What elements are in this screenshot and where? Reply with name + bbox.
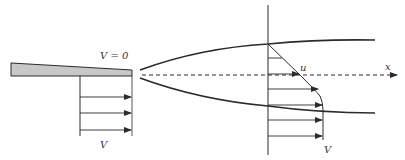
wall-velocity-label: V = 0 bbox=[100, 50, 129, 61]
upstream-velocity-label: V bbox=[100, 139, 109, 150]
wake-velocity-profile bbox=[268, 44, 323, 140]
wake-diagram: V = 0 V x u V bbox=[0, 0, 405, 160]
local-velocity-label: u bbox=[300, 62, 306, 73]
wake-lower-boundary bbox=[140, 78, 375, 113]
flat-plate bbox=[11, 63, 132, 76]
freestream-velocity-label: V bbox=[324, 144, 333, 155]
x-axis-label: x bbox=[385, 61, 391, 72]
upstream-velocity-profile bbox=[80, 76, 132, 136]
wake-upper-boundary bbox=[140, 40, 375, 70]
